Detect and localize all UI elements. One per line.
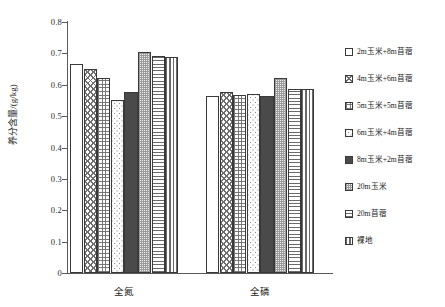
legend-swatch-icon [345,237,353,245]
bar [206,96,219,273]
y-axis-tick [62,179,68,180]
legend-item[interactable]: 5m玉米+5m苜蓿 [345,92,443,119]
legend-item-label: 8m玉米+2m苜蓿 [357,156,413,164]
legend-item-label: 6m玉米+4m苜蓿 [357,129,413,137]
legend-item[interactable]: 6m玉米+4m苜蓿 [345,119,443,146]
legend-swatch-icon [345,75,353,83]
y-axis-tick-label: 0 [26,268,62,278]
bar-group [70,22,179,273]
bar [111,100,124,273]
legend-swatch-icon [345,210,353,218]
legend-item-label: 2m玉米+8m苜蓿 [357,48,413,56]
bar-chart: 0.80.70.60.50.40.30.20.10 养分含量/(g/kg) 全氮… [0,0,445,307]
legend-item[interactable]: 4m玉米+6m苜蓿 [345,65,443,92]
y-axis-tick-label: 0.8 [26,17,62,27]
legend-item[interactable]: 裸地 [345,227,443,254]
y-axis-title: 养分含量/(g/kg) [6,65,19,165]
bar [288,89,301,273]
y-axis-tick-label: 0.7 [26,48,62,58]
legend-swatch-icon [345,48,353,56]
legend-swatch-icon [345,129,353,137]
legend-item[interactable]: 20m苜蓿 [345,200,443,227]
y-axis-tick [62,210,68,211]
legend-item-label: 5m玉米+5m苜蓿 [357,102,413,110]
y-axis-tick [62,22,68,23]
bar [97,78,110,273]
y-axis-tick-label: 0.6 [26,80,62,90]
y-axis-tick-label: 0.3 [26,174,62,184]
x-axis-category-label: 全氮 [70,284,179,298]
y-axis-tick [62,85,68,86]
legend-item-label: 20m苜蓿 [357,210,387,218]
y-axis-tick-label: 0.5 [26,111,62,121]
legend-item-label: 4m玉米+6m苜蓿 [357,75,413,83]
legend-swatch-icon [345,102,353,110]
legend-item[interactable]: 2m玉米+8m苜蓿 [345,38,443,65]
legend-item-label: 裸地 [357,237,373,245]
chart-legend: 2m玉米+8m苜蓿4m玉米+6m苜蓿5m玉米+5m苜蓿6m玉米+4m苜蓿8m玉米… [345,38,443,254]
bar [165,57,178,273]
bar [220,92,233,273]
y-axis-tick-label: 0.1 [26,237,62,247]
legend-swatch-icon [345,156,353,164]
bar [84,69,97,273]
y-axis-tick [62,148,68,149]
legend-item[interactable]: 20m玉米 [345,173,443,200]
y-axis-tick [62,273,68,274]
x-axis-category-label: 全磷 [206,284,315,298]
bar [138,52,151,273]
bar [260,96,273,273]
bar [70,64,83,273]
bar [233,95,246,273]
y-axis-tick [62,53,68,54]
bar [152,56,165,273]
bar-group [206,22,315,273]
bar [124,92,137,273]
bar [247,94,260,273]
y-axis-tick-label: 0.2 [26,205,62,215]
legend-item[interactable]: 8m玉米+2m苜蓿 [345,146,443,173]
y-axis-tick [62,242,68,243]
x-axis-line [67,273,333,274]
legend-item-label: 20m玉米 [357,183,387,191]
y-axis-tick-label: 0.4 [26,143,62,153]
legend-swatch-icon [345,183,353,191]
bar [274,78,287,273]
bar [301,89,314,273]
y-axis-tick [62,116,68,117]
